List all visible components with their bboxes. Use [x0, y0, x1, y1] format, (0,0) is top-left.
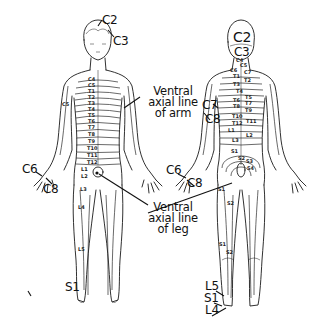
segment-post-t1: T1	[233, 74, 240, 79]
segment-post-s1: S1	[231, 149, 238, 154]
segment-post-t11: T11	[246, 119, 256, 124]
segment-post-t9: T9	[245, 108, 252, 113]
annotation-leg-line3: of leg	[142, 224, 204, 235]
segment-t7: T7	[88, 125, 95, 130]
label-posterior-c6: C6	[166, 164, 181, 176]
segment-post-c5: C5	[240, 63, 247, 68]
segment-t8: T8	[88, 132, 95, 137]
segment-post-l1: L1	[228, 128, 235, 133]
dermatome-diagram: C2 C3 C4 C5 T1 T2 T3 T4 T5 T6 T7 T8 T9 T…	[0, 0, 320, 330]
segment-post-l3: L3	[232, 138, 239, 143]
label-anterior-l4: L4	[78, 205, 85, 210]
label-anterior-c5: C5	[62, 102, 69, 107]
annotation-ventral-axial-leg: Ventral axial line of leg	[142, 202, 204, 235]
label-posterior-s2-thigh: S2	[227, 201, 234, 206]
label-anterior-l2: L2	[81, 174, 88, 179]
segment-post-t10: T10	[232, 114, 242, 119]
segment-l1: L1	[81, 167, 88, 172]
segment-t10: T10	[87, 146, 97, 151]
label-anterior-l5: L5	[78, 247, 85, 252]
segment-post-t3: T3	[233, 82, 240, 87]
label-anterior-l3: L3	[80, 187, 87, 192]
label-anterior-s1: S1	[65, 281, 80, 293]
annotation-arm-line3: of arm	[142, 108, 204, 119]
segment-post-t7: T7	[245, 101, 252, 106]
label-posterior-c8: C8	[187, 177, 202, 189]
segment-post-l2: L2	[246, 133, 253, 138]
segment-post-t12: T12	[232, 121, 242, 126]
label-posterior-s2-calf: S2	[226, 250, 233, 255]
annotation-ventral-axial-arm: Ventral axial line of arm	[142, 86, 204, 119]
label-posterior-l4: L4	[205, 304, 219, 316]
segment-post-t2: T2	[244, 78, 251, 83]
label-posterior-s1-thigh: S1	[218, 187, 225, 192]
body-outlines	[0, 0, 320, 330]
segment-t12: T12	[87, 160, 97, 165]
segment-t11: T11	[87, 153, 97, 158]
label-anterior-c2: C2	[102, 14, 117, 26]
segment-post-s3: S3	[246, 159, 253, 164]
label-anterior-c6: C6	[22, 163, 37, 175]
label-posterior-c8-upper: C8	[205, 113, 220, 125]
label-posterior-c7: C7	[202, 99, 217, 111]
segment-post-t8: T8	[233, 104, 240, 109]
label-posterior-c2: C2	[233, 30, 251, 44]
segment-t9: T9	[88, 139, 95, 144]
label-anterior-c3: C3	[113, 35, 128, 47]
segment-post-c7: C7	[244, 70, 251, 75]
arm-axial-pointer	[124, 97, 140, 108]
segment-post-s2: S2	[238, 156, 245, 161]
label-posterior-s1-calf: S1	[219, 242, 226, 247]
segment-post-s4: S4	[247, 166, 254, 171]
segment-post-t4: T4	[236, 89, 243, 94]
label-anterior-c8: C8	[43, 183, 58, 195]
